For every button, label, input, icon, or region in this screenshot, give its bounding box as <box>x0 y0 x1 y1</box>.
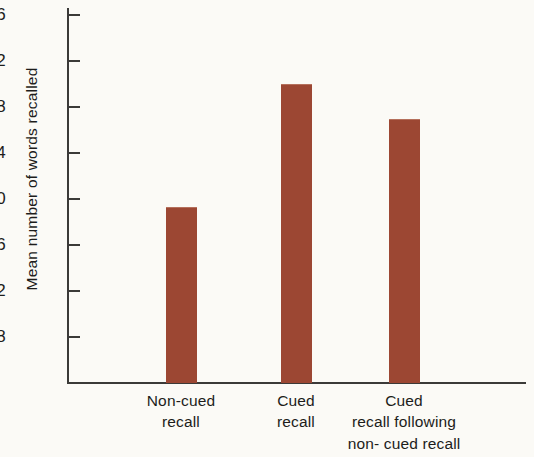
y-axis-line <box>67 8 69 384</box>
y-axis-tick-mark <box>69 14 80 16</box>
y-axis-tick-label: 24 <box>0 144 6 161</box>
y-axis-title: Mean number of words recalled <box>23 29 41 329</box>
y-axis-tick-mark <box>69 106 80 108</box>
y-axis-tick-label: 16 <box>0 236 6 253</box>
y-axis-tick-mark <box>69 290 80 292</box>
bar-chart-figure: 812162024283236 Mean number of words rec… <box>0 0 534 457</box>
y-axis-tick-label: 12 <box>0 282 6 299</box>
y-axis-tick-label: 28 <box>0 98 6 115</box>
bar <box>389 119 420 384</box>
y-axis-tick-label: 20 <box>0 190 6 207</box>
plot-area: 812162024283236 Mean number of words rec… <box>0 0 534 457</box>
bar <box>166 207 197 383</box>
y-axis-tick-mark <box>69 336 80 338</box>
y-axis-tick-mark <box>69 198 80 200</box>
y-axis-tick-mark <box>69 60 80 62</box>
y-axis-tick-mark <box>69 244 80 246</box>
y-axis-tick-label: 8 <box>0 328 6 345</box>
y-axis-tick-mark <box>69 152 80 154</box>
x-axis-category-label: Cued recall following non- cued recall <box>319 390 489 454</box>
y-axis-tick-label: 36 <box>0 6 6 23</box>
y-axis-tick-label: 32 <box>0 52 6 69</box>
bar <box>281 84 312 383</box>
